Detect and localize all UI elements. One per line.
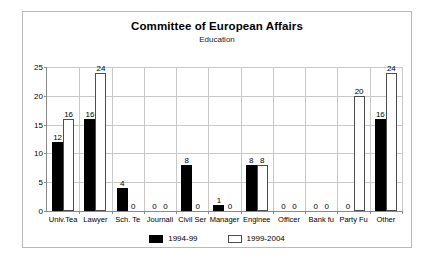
x-tick-mark <box>305 211 306 214</box>
bar-value-label: 16 <box>85 110 94 119</box>
bar-group: 00Bank fu <box>305 67 337 211</box>
bar-value-label: 0 <box>346 202 350 211</box>
x-tick-mark <box>112 211 113 214</box>
bar-group-bars: 40 <box>112 67 144 211</box>
x-tick-mark <box>273 211 274 214</box>
y-tick-label: 10 <box>34 149 43 158</box>
legend-label: 1999-2004 <box>247 234 285 243</box>
bar-group: 1624Lawyer <box>79 67 111 211</box>
x-category-label: Other <box>376 215 395 224</box>
bar-value-label: 8 <box>260 156 264 165</box>
legend-swatch <box>228 235 242 243</box>
bar[interactable]: 8 <box>246 165 257 211</box>
bar[interactable]: 24 <box>386 73 397 211</box>
chart-title: Committee of European Affairs <box>23 20 411 32</box>
y-tick-label: 15 <box>34 120 43 129</box>
bar-value-label: 0 <box>281 202 285 211</box>
x-category-label: Sch. Te <box>115 215 140 224</box>
bar-value-label: 0 <box>195 202 199 211</box>
bar-value-label: 24 <box>387 64 396 73</box>
x-tick-mark <box>208 211 209 214</box>
bar-group: 1624Other <box>370 67 402 211</box>
bar-group: 10Manager <box>208 67 240 211</box>
chart-frame: Committee of European Affairs Education … <box>22 11 412 248</box>
bar-group: 00Journali <box>144 67 176 211</box>
bar[interactable]: 16 <box>63 119 74 211</box>
x-tick-mark <box>241 211 242 214</box>
bar-group: 88Enginee <box>241 67 273 211</box>
bar[interactable]: 12 <box>52 142 63 211</box>
x-tick-mark <box>144 211 145 214</box>
x-tick-mark <box>176 211 177 214</box>
bar-value-label: 1 <box>217 196 221 205</box>
bar-value-label: 12 <box>53 133 62 142</box>
bar-group: 1216Univ.Tea <box>47 67 79 211</box>
legend-swatch <box>149 235 163 243</box>
bar-group-bars: 1624 <box>79 67 111 211</box>
x-tick-mark <box>402 211 403 214</box>
bar-value-label: 8 <box>184 156 188 165</box>
bar-group-bars: 88 <box>241 67 273 211</box>
bar[interactable]: 16 <box>375 119 386 211</box>
bar[interactable]: 24 <box>95 73 106 211</box>
bar-value-label: 0 <box>131 202 135 211</box>
bar-value-label: 0 <box>163 202 167 211</box>
bar-group-bars: 80 <box>176 67 208 211</box>
bar-group-bars: 020 <box>337 67 369 211</box>
x-category-label: Officer <box>278 215 300 224</box>
chart-subtitle: Education <box>23 35 411 44</box>
bar[interactable]: 20 <box>354 96 365 211</box>
y-tick-label: 20 <box>34 91 43 100</box>
bar-group: 020Party Fu <box>337 67 369 211</box>
x-tick-mark <box>337 211 338 214</box>
bar[interactable]: 1 <box>213 205 224 211</box>
bar[interactable]: 4 <box>117 188 128 211</box>
title-block: Committee of European Affairs Education <box>23 20 411 44</box>
x-category-label: Univ.Tea <box>49 215 78 224</box>
legend-label: 1994-99 <box>168 234 197 243</box>
x-category-label: Journali <box>147 215 173 224</box>
bar-value-label: 0 <box>152 202 156 211</box>
x-tick-mark <box>79 211 80 214</box>
x-category-label: Party Fu <box>339 215 367 224</box>
x-tick-mark <box>370 211 371 214</box>
bar-value-label: 0 <box>228 202 232 211</box>
bar[interactable]: 8 <box>181 165 192 211</box>
bar-group-bars: 1624 <box>370 67 402 211</box>
bar-value-label: 0 <box>325 202 329 211</box>
y-tick-label: 5 <box>39 178 43 187</box>
legend-item[interactable]: 1999-2004 <box>228 234 285 243</box>
bar[interactable]: 8 <box>257 165 268 211</box>
category-gridline <box>402 67 403 211</box>
bar-group: 00Officer <box>273 67 305 211</box>
bar-group: 40Sch. Te <box>112 67 144 211</box>
y-tick-label: 25 <box>34 63 43 72</box>
y-tick-label: 0 <box>39 207 43 216</box>
x-category-label: Lawyer <box>83 215 107 224</box>
y-tick-mark <box>44 211 47 212</box>
bar-group-bars: 00 <box>305 67 337 211</box>
bar-value-label: 20 <box>355 87 364 96</box>
bar-value-label: 0 <box>292 202 296 211</box>
bar-group-bars: 10 <box>208 67 240 211</box>
bar-group: 80Civil Ser <box>176 67 208 211</box>
bar-value-label: 16 <box>64 110 73 119</box>
bar-group-bars: 1216 <box>47 67 79 211</box>
bar-value-label: 24 <box>96 64 105 73</box>
bar-value-label: 0 <box>314 202 318 211</box>
bar[interactable]: 16 <box>84 119 95 211</box>
bar-value-label: 8 <box>249 156 253 165</box>
x-category-label: Manager <box>210 215 240 224</box>
bar-value-label: 4 <box>120 179 124 188</box>
legend-item[interactable]: 1994-99 <box>149 234 197 243</box>
bar-value-label: 16 <box>376 110 385 119</box>
x-category-label: Enginee <box>243 215 271 224</box>
chart-legend: 1994-991999-2004 <box>23 234 411 243</box>
x-category-label: Civil Ser <box>178 215 206 224</box>
bar-group-bars: 00 <box>273 67 305 211</box>
x-category-label: Bank fu <box>309 215 334 224</box>
bar-group-bars: 00 <box>144 67 176 211</box>
plot-area: 05101520251216Univ.Tea1624Lawyer40Sch. T… <box>46 67 402 212</box>
